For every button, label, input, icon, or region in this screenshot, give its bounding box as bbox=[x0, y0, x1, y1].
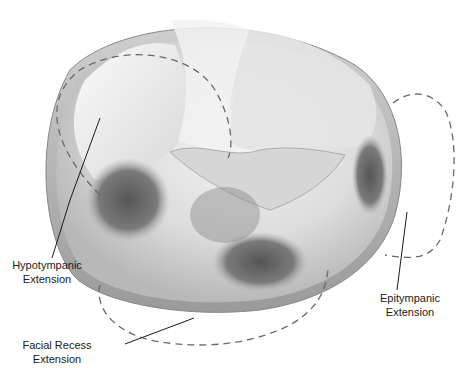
facial-recess-leader bbox=[125, 318, 194, 344]
epitympanic-extension-label: Epitympanic Extension bbox=[365, 291, 455, 319]
hypotympanic-extension-label: Hypotympanic Extension bbox=[4, 258, 90, 286]
upper-right-surface bbox=[230, 30, 376, 150]
facial-recess-extension-label: Facial Recess Extension bbox=[20, 338, 94, 366]
label-line: Hypotympanic bbox=[4, 258, 90, 272]
center-pit bbox=[190, 187, 260, 243]
label-line: Extension bbox=[20, 352, 94, 366]
label-line: Epitympanic bbox=[365, 291, 455, 305]
label-line: Extension bbox=[4, 272, 90, 286]
hypotympanic-pit bbox=[86, 158, 170, 242]
right-pit bbox=[352, 135, 388, 215]
label-line: Extension bbox=[365, 305, 455, 319]
label-line: Facial Recess bbox=[20, 338, 94, 352]
epitympanic-leader bbox=[397, 212, 407, 290]
